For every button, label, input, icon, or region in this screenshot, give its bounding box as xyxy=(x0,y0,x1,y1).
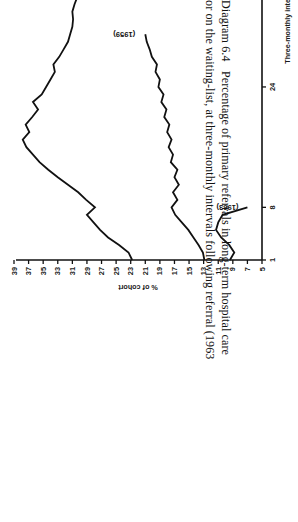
y-tick-label: 31 xyxy=(68,267,77,275)
caption-line-1: Diagram 6.4 Percentage of primary referr… xyxy=(218,0,234,420)
y-tick-label: 29 xyxy=(83,267,92,275)
y-tick-label: 37 xyxy=(24,267,33,275)
y-tick-label: 27 xyxy=(97,267,106,275)
y-axis-title: % of cohort xyxy=(118,283,158,292)
figure-caption: Diagram 6.4 Percentage of primary referr… xyxy=(234,0,296,522)
y-tick-label: 21 xyxy=(141,267,150,275)
y-tick-label: 39 xyxy=(10,267,19,275)
y-tick-label: 33 xyxy=(53,267,62,275)
series-label-1959: (1959) xyxy=(113,30,135,39)
y-tick-label: 35 xyxy=(39,267,48,275)
y-tick-label: 19 xyxy=(155,267,164,275)
caption-line-2: or on the waiting-list, at three-monthly… xyxy=(202,0,218,420)
figure-page: 579111315171921232527293133353739182464T… xyxy=(0,0,298,522)
y-tick-label: 23 xyxy=(126,267,135,275)
y-tick-label: 25 xyxy=(112,267,121,275)
